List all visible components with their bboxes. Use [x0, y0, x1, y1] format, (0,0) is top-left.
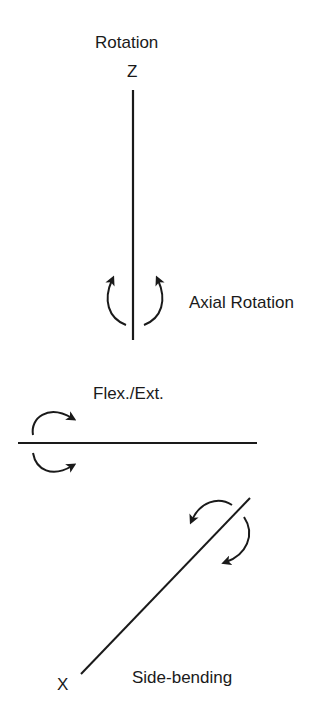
rotation-title: Rotation	[95, 34, 158, 51]
x-axis-line	[81, 498, 250, 674]
x-axis-label: X	[57, 676, 68, 693]
axial-rotation-arrows-icon	[108, 280, 163, 325]
flex-ext-label: Flex./Ext.	[93, 385, 164, 402]
side-bending-arrows-icon	[192, 501, 249, 562]
axial-rotation-label: Axial Rotation	[189, 294, 294, 311]
diagram-canvas	[0, 0, 332, 708]
z-axis-label: Z	[127, 63, 137, 80]
side-bending-label: Side-bending	[132, 669, 232, 686]
